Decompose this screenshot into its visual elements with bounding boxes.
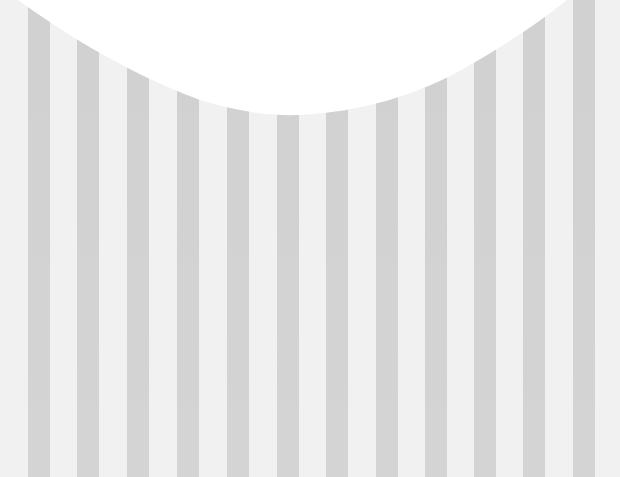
dark-stripe	[177, 0, 199, 477]
dark-stripe	[28, 0, 50, 477]
dark-stripe	[376, 0, 398, 477]
dark-stripe	[277, 0, 299, 477]
dark-stripe	[523, 0, 545, 477]
dark-stripe	[227, 0, 249, 477]
dark-stripe	[77, 0, 99, 477]
dark-stripe	[127, 0, 149, 477]
dark-stripe	[573, 0, 595, 477]
dark-stripe	[326, 0, 348, 477]
dark-stripe	[474, 0, 496, 477]
dark-stripe	[425, 0, 447, 477]
striped-border-image	[0, 0, 620, 477]
